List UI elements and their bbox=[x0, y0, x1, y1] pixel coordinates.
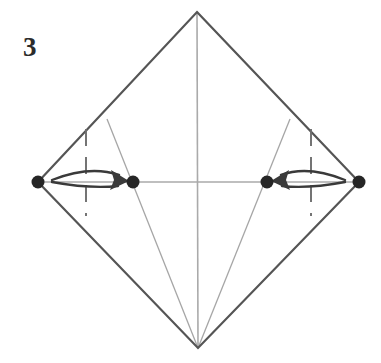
fold-guides bbox=[86, 129, 311, 216]
crease-right-oblique bbox=[198, 119, 290, 348]
crease-vertical-diagonal bbox=[197, 12, 198, 348]
step-number-label: 3 bbox=[23, 34, 37, 61]
right-fold-arrowhead-icon bbox=[271, 170, 290, 190]
crease-lines bbox=[38, 12, 359, 348]
crease-left-oblique bbox=[107, 119, 198, 348]
inner-right-dot bbox=[261, 176, 274, 189]
right-fold-arrow-upper-curve bbox=[281, 171, 345, 180]
left-fold-arrow bbox=[52, 170, 129, 190]
right-fold-arrow bbox=[271, 170, 345, 190]
right-corner-dot bbox=[353, 176, 366, 189]
inner-left-dot bbox=[127, 176, 140, 189]
left-corner-dot bbox=[32, 176, 45, 189]
left-fold-arrowhead-icon bbox=[110, 170, 129, 190]
origami-figure bbox=[0, 0, 381, 363]
origami-diagram: 3 bbox=[0, 0, 381, 363]
left-fold-arrow-upper-curve bbox=[52, 171, 119, 180]
